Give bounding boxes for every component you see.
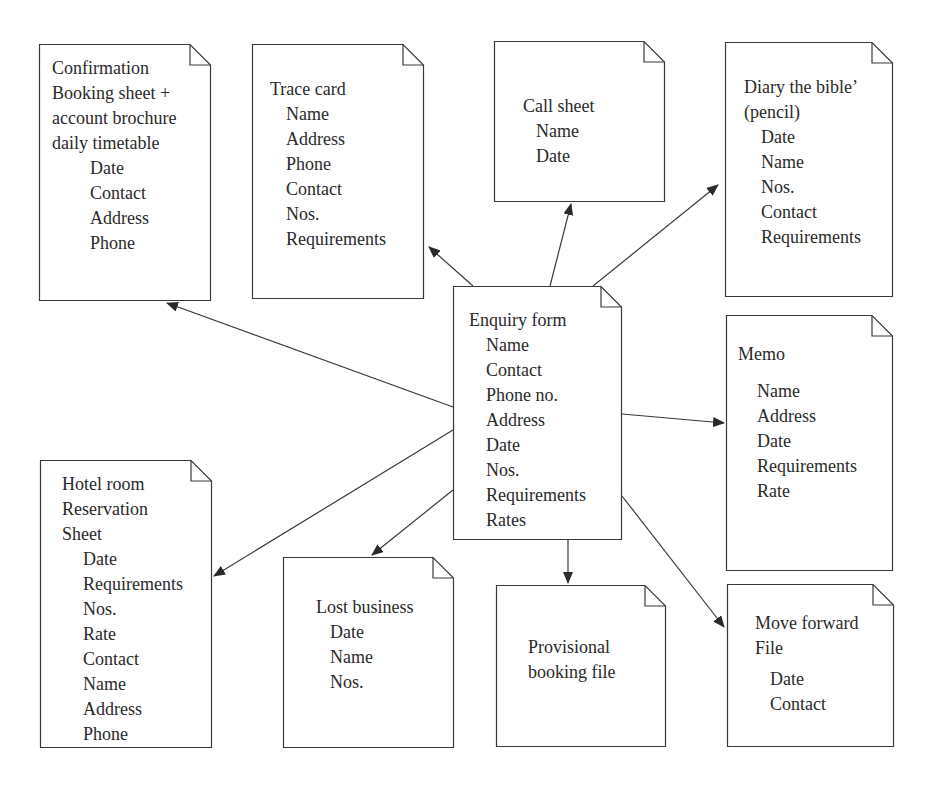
arrow-enquiry-to-trace-card [429, 247, 473, 286]
doc-memo: Memo Name Address Date Requirements Rate [726, 315, 893, 571]
doc-field: Date [90, 156, 176, 181]
doc-field: Phone [286, 152, 386, 177]
doc-field: Requirements [757, 454, 857, 479]
doc-title: Move forward [755, 611, 858, 636]
doc-field: Date [761, 125, 861, 150]
doc-title: Lost business [316, 595, 414, 620]
doc-field: Requirements [761, 225, 861, 250]
doc-field: Requirements [286, 227, 386, 252]
doc-field: Requirements [486, 483, 586, 508]
doc-field: Date [330, 620, 414, 645]
doc-field: Address [83, 697, 183, 722]
doc-field: Rates [486, 508, 586, 533]
doc-field: Nos. [761, 175, 861, 200]
doc-field: Contact [83, 647, 183, 672]
doc-diary: Diary the bible’ (pencil) Date Name Nos.… [725, 42, 893, 297]
doc-title: Diary the bible’ [744, 75, 861, 100]
doc-field: Name [536, 119, 594, 144]
doc-field: Phone no. [486, 383, 586, 408]
doc-title: account brochure [52, 106, 176, 131]
doc-field: Name [757, 379, 857, 404]
doc-field: Date [536, 144, 594, 169]
doc-field: Requirements [83, 572, 183, 597]
doc-title: Enquiry form [469, 308, 586, 333]
doc-move-forward-file: Move forward File Date Contact [727, 584, 894, 747]
doc-field: Nos. [486, 458, 586, 483]
doc-field: Address [90, 206, 176, 231]
doc-title: Memo [738, 342, 857, 367]
doc-field: Phone [90, 231, 176, 256]
doc-field: Date [770, 667, 858, 692]
doc-field: Date [486, 433, 586, 458]
doc-field: Contact [286, 177, 386, 202]
arrow-enquiry-to-lost-business [372, 490, 453, 555]
doc-title: (pencil) [744, 100, 861, 125]
doc-field: Phone [83, 722, 183, 747]
doc-field: Name [486, 333, 586, 358]
doc-field: Date [83, 547, 183, 572]
doc-field: Rate [757, 479, 857, 504]
doc-call-sheet: Call sheet Name Date [494, 41, 665, 202]
doc-title: Trace card [270, 77, 386, 102]
arrow-enquiry-to-call-sheet [550, 204, 571, 286]
doc-title: Provisional [528, 635, 616, 660]
arrow-enquiry-to-confirmation [167, 303, 453, 407]
doc-title: Confirmation [52, 56, 176, 81]
doc-trace-card: Trace card Name Address Phone Contact No… [252, 44, 424, 299]
doc-confirmation: Confirmation Booking sheet + account bro… [39, 44, 211, 301]
doc-field: Date [757, 429, 857, 454]
doc-field: Name [83, 672, 183, 697]
doc-provisional-booking-file: Provisional booking file [496, 585, 666, 747]
doc-enquiry-form: Enquiry form Name Contact Phone no. Addr… [453, 286, 622, 540]
doc-title: booking file [528, 660, 616, 685]
arrow-enquiry-to-memo [622, 414, 724, 423]
doc-field: Nos. [330, 670, 414, 695]
doc-field: Address [757, 404, 857, 429]
doc-title: Hotel room [62, 472, 183, 497]
doc-title: Call sheet [523, 94, 594, 119]
doc-field: Rate [83, 622, 183, 647]
doc-field: Nos. [83, 597, 183, 622]
doc-field: Name [286, 102, 386, 127]
doc-field: Contact [90, 181, 176, 206]
document-flow-diagram: Confirmation Booking sheet + account bro… [0, 0, 929, 787]
doc-field: Contact [486, 358, 586, 383]
doc-title: daily timetable [52, 131, 176, 156]
doc-field: Contact [761, 200, 861, 225]
doc-field: Address [286, 127, 386, 152]
doc-field: Name [330, 645, 414, 670]
doc-field: Nos. [286, 202, 386, 227]
doc-hotel-room-reservation: Hotel room Reservation Sheet Date Requir… [40, 460, 212, 748]
arrow-enquiry-to-hotel-room [214, 430, 453, 576]
doc-field: Address [486, 408, 586, 433]
doc-title: Sheet [62, 522, 183, 547]
doc-field: Name [761, 150, 861, 175]
doc-field: Contact [770, 692, 858, 717]
doc-title: File [755, 636, 858, 661]
doc-lost-business: Lost business Date Name Nos. [283, 557, 454, 748]
doc-title: Reservation [62, 497, 183, 522]
doc-title: Booking sheet + [52, 81, 176, 106]
